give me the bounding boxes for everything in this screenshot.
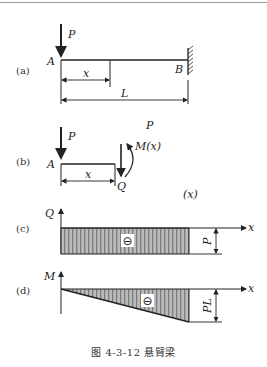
figure-caption: 图 4-3-12 悬臂梁 xyxy=(0,344,267,359)
load-label-p: P xyxy=(67,28,76,41)
load-label-p: P xyxy=(67,130,76,143)
shear-label-q: Q xyxy=(117,180,126,193)
end-label-b: B xyxy=(174,63,183,76)
minus-sign-icon: ⊖ xyxy=(122,234,132,248)
moment-arc-icon xyxy=(125,144,133,177)
cantilever-beam-figure: (a) P A B x L P (b) xyxy=(0,0,267,367)
magnitude-label-p: P xyxy=(201,237,214,246)
dim-label-x: x xyxy=(85,168,92,181)
panel-b: P (b) P A x Q M(x) (x) xyxy=(16,119,198,201)
magnitude-label-pl: PL xyxy=(201,298,214,314)
end-label-a: A xyxy=(46,158,55,171)
dim-label-x: x xyxy=(83,67,90,80)
stray-label-x: (x) xyxy=(183,188,198,201)
panel-a: (a) P A B x L xyxy=(16,24,193,104)
dim-label-l: L xyxy=(120,87,128,100)
panel-b-tag: (b) xyxy=(16,156,30,167)
panel-c: (c) Q x P ⊖ xyxy=(16,207,255,254)
moment-label: M(x) xyxy=(134,140,161,153)
x-axis-label: x xyxy=(248,221,255,234)
end-label-a: A xyxy=(46,55,55,68)
panel-d-tag: (d) xyxy=(16,285,30,296)
panel-d: (d) M x PL ⊖ xyxy=(16,270,255,322)
x-axis-label: x xyxy=(248,282,255,295)
minus-sign-icon: ⊖ xyxy=(142,294,152,308)
fixed-support-icon xyxy=(188,46,193,75)
panel-a-tag: (a) xyxy=(16,65,30,76)
m-axis-label: M xyxy=(43,270,56,283)
stray-label-p: P xyxy=(145,119,154,132)
q-axis-label: Q xyxy=(45,207,54,220)
panel-c-tag: (c) xyxy=(16,223,30,234)
